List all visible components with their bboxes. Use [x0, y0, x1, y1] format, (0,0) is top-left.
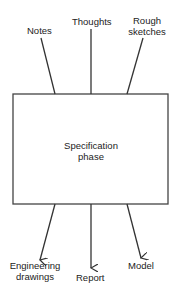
- input-rough-sketches-label: Rough sketches: [128, 15, 166, 37]
- center-label-line2: phase: [56, 151, 126, 162]
- center-label-line1: Specification: [56, 140, 126, 151]
- engineering-label-line2: drawings: [8, 271, 62, 282]
- notes-line: [41, 38, 55, 94]
- output-report-label: Report: [76, 272, 105, 283]
- engineering-drawings-arrow: [40, 204, 55, 260]
- rough-label-line1: Rough: [128, 15, 166, 26]
- engineering-label-line1: Engineering: [8, 260, 62, 271]
- output-model-label: Model: [128, 260, 154, 271]
- rough-label-line2: sketches: [128, 26, 166, 37]
- model-arrow: [127, 204, 141, 258]
- rough-sketches-line: [127, 38, 143, 94]
- output-engineering-drawings-label: Engineering drawings: [8, 260, 62, 282]
- center-label: Specification phase: [56, 140, 126, 162]
- input-notes-label: Notes: [27, 25, 52, 36]
- input-thoughts-label: Thoughts: [72, 16, 112, 27]
